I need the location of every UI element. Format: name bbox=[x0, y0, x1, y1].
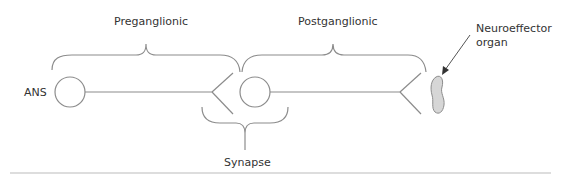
postganglionic-label: Postganglionic bbox=[298, 15, 378, 28]
bottom-divider bbox=[10, 172, 551, 174]
preganglionic-label: Preganglionic bbox=[114, 15, 188, 28]
preganglionic-terminal-upper bbox=[212, 73, 233, 92]
arrow-head-icon bbox=[442, 66, 449, 75]
postganglionic-terminal-upper bbox=[400, 73, 421, 92]
postganglionic-terminal-lower bbox=[400, 92, 421, 114]
neuroeffector-organ-shape bbox=[431, 76, 444, 113]
synapse-brace bbox=[202, 107, 288, 133]
organ-label-line2: organ bbox=[476, 36, 508, 49]
postganglionic-brace bbox=[242, 44, 426, 72]
ans-ganglion-circle bbox=[55, 77, 85, 107]
organ-label-line1: Neuroeffector bbox=[476, 22, 552, 35]
preganglionic-terminal-lower bbox=[212, 92, 233, 114]
postganglionic-cell-circle bbox=[240, 77, 270, 107]
synapse-label: Synapse bbox=[224, 156, 271, 169]
ans-label: ANS bbox=[24, 86, 47, 99]
organ-arrow-line bbox=[445, 35, 470, 70]
preganglionic-brace bbox=[52, 44, 240, 72]
